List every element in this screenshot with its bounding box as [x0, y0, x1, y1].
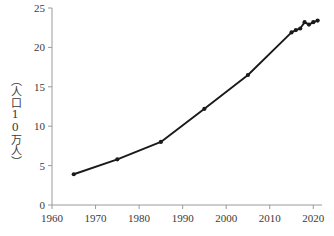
y-tick-label: 0: [40, 199, 46, 211]
y-tick-label: 10: [34, 120, 46, 132]
line-chart: 05101520251960197019801990200020102020 （…: [0, 0, 334, 236]
data-point-marker: [159, 140, 163, 144]
data-point-marker: [307, 22, 311, 26]
x-tick-label: 2010: [259, 212, 282, 224]
x-tick-label: 1960: [41, 212, 64, 224]
x-tick-label: 1970: [85, 212, 108, 224]
data-point-marker: [72, 172, 76, 176]
y-tick-label: 25: [34, 2, 46, 14]
data-point-marker: [298, 26, 302, 30]
data-point-marker: [246, 73, 250, 77]
x-tick-label: 1990: [172, 212, 195, 224]
data-point-marker: [302, 20, 306, 24]
y-tick-label: 20: [34, 41, 46, 53]
series-line: [74, 21, 318, 175]
data-point-marker: [311, 20, 315, 24]
x-tick-label: 1980: [128, 212, 151, 224]
y-tick-label: 15: [34, 81, 46, 93]
data-point-marker: [289, 30, 293, 34]
data-point-marker: [316, 19, 320, 23]
data-point-marker: [294, 28, 298, 32]
x-tick-label: 2020: [302, 212, 325, 224]
x-tick-label: 2000: [215, 212, 238, 224]
chart-canvas: 05101520251960197019801990200020102020: [0, 0, 334, 236]
y-tick-label: 5: [40, 160, 46, 172]
data-point-marker: [115, 157, 119, 161]
data-point-marker: [202, 107, 206, 111]
